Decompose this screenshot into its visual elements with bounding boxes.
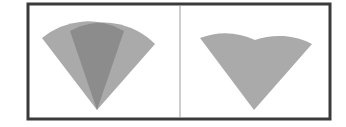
right-panel xyxy=(200,33,312,110)
sector-diagram xyxy=(0,0,346,127)
sector-union xyxy=(200,33,312,110)
left-panel xyxy=(42,21,155,110)
